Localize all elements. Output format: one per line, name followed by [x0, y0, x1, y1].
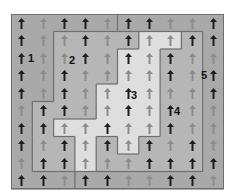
grid-cell [139, 137, 161, 155]
up-arrow-icon [61, 18, 68, 29]
up-arrow-icon [104, 18, 111, 29]
grid-cell [181, 84, 203, 102]
grid-cell [203, 119, 225, 137]
up-arrow-icon [146, 35, 153, 46]
grid-cell [11, 14, 33, 32]
up-arrow-icon [61, 35, 68, 46]
up-arrow-icon [104, 123, 111, 134]
up-arrow-icon [146, 18, 153, 29]
grid-cell [11, 67, 33, 85]
grid-cell [32, 49, 54, 67]
up-arrow-icon [210, 35, 217, 46]
grid-cell [96, 14, 118, 32]
grid-cell [96, 172, 118, 190]
up-arrow-icon [82, 18, 89, 29]
grid-cell [160, 14, 182, 32]
up-arrow-icon [104, 53, 111, 64]
grid-cell [75, 84, 97, 102]
up-arrow-icon [104, 70, 111, 81]
up-arrow-icon [18, 35, 25, 46]
up-arrow-icon [146, 158, 153, 169]
up-arrow-icon [18, 53, 25, 64]
up-arrow-icon [61, 88, 68, 99]
up-arrow-icon [82, 53, 89, 64]
grid-cell [118, 32, 140, 50]
grid-cell [54, 172, 76, 190]
grid-cell [139, 49, 161, 67]
up-arrow-icon [61, 123, 68, 134]
grid-cell [160, 32, 182, 50]
up-arrow-icon [210, 53, 217, 64]
grid-cell [181, 49, 203, 67]
up-arrow-icon [18, 18, 25, 29]
grid-cell [160, 84, 182, 102]
up-arrow-icon [18, 158, 25, 169]
region-label-2: 2 [69, 55, 75, 66]
up-arrow-icon [61, 158, 68, 169]
up-arrow-icon [18, 70, 25, 81]
grid-cell [75, 32, 97, 50]
up-arrow-icon [210, 158, 217, 169]
grid-cell [75, 102, 97, 120]
up-arrow-icon [82, 175, 89, 186]
grid-cell [203, 14, 225, 32]
grid-cell [54, 102, 76, 120]
up-arrow-icon [40, 158, 47, 169]
up-arrow-icon [167, 53, 174, 64]
up-arrow-icon [167, 175, 174, 186]
grid-cell [96, 137, 118, 155]
up-arrow-icon [104, 35, 111, 46]
grid-cell [54, 119, 76, 137]
up-arrow-icon [125, 18, 132, 29]
up-arrow-icon [210, 123, 217, 134]
up-arrow-icon [146, 53, 153, 64]
up-arrow-icon [104, 88, 111, 99]
up-arrow-icon [40, 123, 47, 134]
up-arrow-icon [61, 53, 68, 64]
grid-cell [118, 102, 140, 120]
grid-cell [11, 137, 33, 155]
up-arrow-icon [18, 175, 25, 186]
grid-cell [96, 102, 118, 120]
grid-cell [32, 172, 54, 190]
up-arrow-icon [146, 140, 153, 151]
grid-cell [181, 102, 203, 120]
up-arrow-icon [167, 18, 174, 29]
up-arrow-icon [146, 70, 153, 81]
grid-cell [32, 137, 54, 155]
grid-cell [32, 84, 54, 102]
grid-cell [139, 32, 161, 50]
grid-cell [32, 14, 54, 32]
up-arrow-icon [146, 175, 153, 186]
up-arrow-icon [61, 105, 68, 116]
grid-cell [96, 84, 118, 102]
up-arrow-icon [167, 158, 174, 169]
up-arrow-icon [40, 88, 47, 99]
up-arrow-icon [104, 105, 111, 116]
grid-cell [139, 154, 161, 172]
up-arrow-icon [189, 175, 196, 186]
up-arrow-icon [18, 123, 25, 134]
up-arrow-icon [210, 175, 217, 186]
grid-cell [160, 154, 182, 172]
up-arrow-icon [18, 140, 25, 151]
grid-cell [11, 84, 33, 102]
grid-cell [203, 102, 225, 120]
grid-cell [54, 137, 76, 155]
up-arrow-icon [82, 70, 89, 81]
up-arrow-icon [125, 35, 132, 46]
region-label-5: 5 [201, 70, 207, 81]
grid-cell [32, 119, 54, 137]
up-arrow-icon [189, 123, 196, 134]
grid-cell [203, 172, 225, 190]
up-arrow-icon [125, 175, 132, 186]
grid-cell [54, 14, 76, 32]
up-arrow-icon [61, 70, 68, 81]
up-arrow-icon [82, 140, 89, 151]
up-arrow-icon [167, 140, 174, 151]
grid-cell [160, 137, 182, 155]
up-arrow-icon [125, 123, 132, 134]
up-arrow-icon [104, 158, 111, 169]
grid-cell [160, 49, 182, 67]
grid-cell [160, 172, 182, 190]
